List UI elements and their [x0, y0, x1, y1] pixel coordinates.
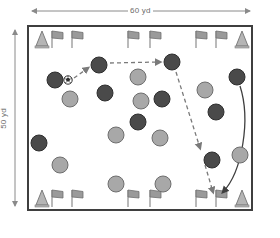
player-marker-light [108, 127, 124, 143]
player-marker-light [52, 157, 68, 173]
player-marker-light [152, 130, 168, 146]
player-marker-light [197, 82, 213, 98]
player-marker-dark [229, 69, 245, 85]
soccer-ball-icon [64, 76, 72, 84]
player-marker-dark [91, 57, 107, 73]
player-marker-dark [47, 72, 63, 88]
player-marker-dark [154, 91, 170, 107]
player-marker-dark [130, 114, 146, 130]
player-marker-dark [208, 104, 224, 120]
diagram-canvas [0, 0, 280, 238]
width-dimension-label: 60 yd [128, 6, 153, 15]
player-marker-light [62, 91, 78, 107]
player-marker-light [108, 176, 124, 192]
player-marker-light [155, 176, 171, 192]
player-marker-light [232, 147, 248, 163]
player-marker-dark [164, 54, 180, 70]
player-marker-dark [97, 85, 113, 101]
height-dimension-label: 50 yd [0, 106, 8, 131]
player-marker-light [133, 93, 149, 109]
player-marker-dark [204, 152, 220, 168]
diagram-root: 60 yd 50 yd [0, 0, 280, 238]
player-marker-light [130, 69, 146, 85]
player-marker-dark [31, 135, 47, 151]
